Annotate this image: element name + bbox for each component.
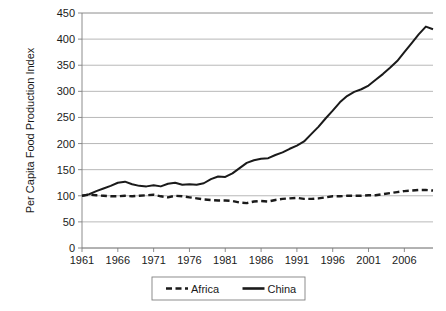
y-tick-label: 0 xyxy=(69,242,75,254)
x-tick-label: 1971 xyxy=(141,254,165,266)
y-tick-label: 50 xyxy=(63,216,75,228)
x-tick-label: 2006 xyxy=(392,254,416,266)
x-tick-label: 1966 xyxy=(106,254,130,266)
x-tick-label: 1976 xyxy=(177,254,201,266)
line-chart: 0501001502002503003504004501961196619711… xyxy=(0,0,446,311)
y-tick-label: 200 xyxy=(57,138,75,150)
legend-label-china: China xyxy=(268,283,298,295)
y-tick-label: 350 xyxy=(57,59,75,71)
y-tick-label: 100 xyxy=(57,190,75,202)
y-tick-label: 450 xyxy=(57,7,75,19)
x-tick-label: 2001 xyxy=(356,254,380,266)
x-tick-label: 1996 xyxy=(320,254,344,266)
y-tick-label: 150 xyxy=(57,164,75,176)
chart-container: 0501001502002503003504004501961196619711… xyxy=(0,0,446,311)
x-tick-label: 1986 xyxy=(249,254,273,266)
x-tick-label: 1991 xyxy=(285,254,309,266)
y-tick-label: 400 xyxy=(57,33,75,45)
y-tick-label: 250 xyxy=(57,111,75,123)
x-tick-label: 1981 xyxy=(213,254,237,266)
y-axis-title: Per Capita Food Production Index xyxy=(24,47,36,213)
y-tick-label: 300 xyxy=(57,85,75,97)
series-line-china xyxy=(82,27,433,196)
series-line-africa xyxy=(82,190,433,203)
x-tick-label: 1961 xyxy=(70,254,94,266)
legend-label-africa: Africa xyxy=(191,283,220,295)
